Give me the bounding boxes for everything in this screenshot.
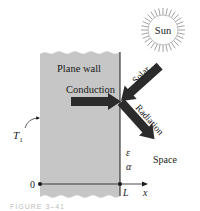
absorptivity-symbol: α [126, 161, 132, 172]
thickness-point [118, 182, 122, 186]
sun-label: Sun [155, 25, 172, 36]
temperature-leader-arrowhead [36, 116, 40, 120]
wall-label: Plane wall [57, 63, 101, 74]
solar-arrow [115, 60, 166, 108]
temperature-label: T1 [13, 129, 23, 144]
origin-point [38, 182, 42, 186]
figure-caption: FIGURE 3–41 [10, 203, 65, 210]
thickness-label: L [122, 187, 129, 198]
origin-label: 0 [30, 179, 35, 190]
space-label: Space [153, 154, 177, 165]
x-axis-arrowhead [142, 182, 148, 187]
axis-label: x [142, 187, 148, 198]
plane-wall-diagram: Plane wall Conduction Solar Radiation [0, 0, 200, 211]
emissivity-symbol: ε [126, 147, 130, 158]
